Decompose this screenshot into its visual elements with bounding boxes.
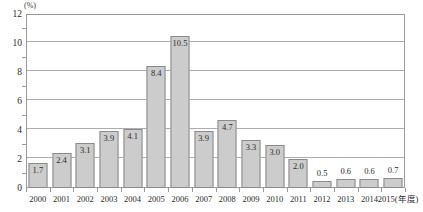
x-tick	[310, 188, 311, 192]
bar-value-label: 1.7	[33, 166, 44, 175]
x-axis: 2000200120022003200420052006200720082009…	[26, 188, 405, 212]
x-tick-label: 2009	[243, 194, 260, 204]
bar-group: 8.4	[144, 14, 168, 188]
bar-group: 1.7	[26, 14, 50, 188]
y-axis-labels: 024681012	[0, 14, 26, 188]
bar-value-label: 3.9	[104, 134, 115, 143]
bar-value-label: 3.3	[246, 143, 257, 152]
x-tick	[50, 188, 51, 192]
bar-value-label: 2.0	[293, 162, 304, 171]
bar-chart: (%) 024681012 1.72.43.13.94.18.410.53.94…	[0, 0, 423, 212]
y-tick-label: 12	[13, 10, 23, 19]
bar-group: 0.6	[358, 14, 382, 188]
x-tick-label: 2014	[361, 194, 378, 204]
bar-group: 3.1	[73, 14, 97, 188]
bar-group: 4.1	[121, 14, 145, 188]
x-tick-label: 2003	[100, 194, 117, 204]
y-tick-label: 6	[17, 97, 22, 106]
x-tick	[405, 188, 406, 192]
bar-value-label: 4.1	[127, 132, 138, 141]
bar-group: 3.9	[97, 14, 121, 188]
bar	[147, 66, 166, 188]
bar-value-label: 4.7	[222, 123, 233, 132]
x-tick-label: 2006	[171, 194, 188, 204]
bar	[313, 181, 332, 188]
bar-group: 3.3	[239, 14, 263, 188]
y-tick-label: 10	[13, 39, 23, 48]
x-tick	[239, 188, 240, 192]
x-tick	[287, 188, 288, 192]
y-tick-label: 2	[17, 155, 22, 164]
bar-value-label: 0.6	[364, 167, 375, 176]
y-tick-label: 0	[17, 184, 22, 193]
x-tick	[192, 188, 193, 192]
x-tick-label: 2010	[266, 194, 283, 204]
x-tick-label: 2007	[195, 194, 212, 204]
bar-value-label: 0.6	[340, 167, 351, 176]
bar-group: 2.0	[287, 14, 311, 188]
bar	[384, 178, 403, 188]
bar-group: 4.7	[216, 14, 240, 188]
bar	[170, 36, 189, 188]
bar-group: 3.9	[192, 14, 216, 188]
bars-layer: 1.72.43.13.94.18.410.53.94.73.33.02.00.5…	[26, 14, 405, 188]
x-tick-label: 2004	[124, 194, 141, 204]
x-tick	[144, 188, 145, 192]
x-tick-label: 2012	[314, 194, 331, 204]
x-tick-label: 2002	[77, 194, 94, 204]
x-tick	[381, 188, 382, 192]
y-tick-label: 8	[17, 68, 22, 77]
x-tick	[216, 188, 217, 192]
x-tick-label: 2000	[29, 194, 46, 204]
bar	[336, 179, 355, 188]
bar-value-label: 8.4	[151, 69, 162, 78]
bar-group: 0.6	[334, 14, 358, 188]
x-tick-label: 2005	[148, 194, 165, 204]
bar	[360, 179, 379, 188]
x-tick-label: 2013	[337, 194, 354, 204]
bar-value-label: 3.9	[198, 134, 209, 143]
x-tick	[97, 188, 98, 192]
x-tick-label: 2015(年度)	[378, 194, 419, 204]
bar-group: 10.5	[168, 14, 192, 188]
bar-group: 2.4	[50, 14, 74, 188]
x-tick	[73, 188, 74, 192]
x-tick	[263, 188, 264, 192]
x-tick-label: 2001	[53, 194, 70, 204]
x-tick-label: 2011	[290, 194, 307, 204]
bar-value-label: 10.5	[173, 39, 188, 48]
bar-value-label: 2.4	[56, 156, 67, 165]
y-axis-unit-label: (%)	[24, 1, 36, 10]
x-tick	[26, 188, 27, 192]
bar-value-label: 0.5	[317, 169, 328, 178]
y-tick-label: 4	[17, 126, 22, 135]
x-tick-label: 2008	[219, 194, 236, 204]
x-tick	[121, 188, 122, 192]
bar-group: 0.5	[310, 14, 334, 188]
bar-group: 3.0	[263, 14, 287, 188]
bar-value-label: 3.1	[80, 146, 91, 155]
x-tick	[358, 188, 359, 192]
x-tick	[168, 188, 169, 192]
bar-value-label: 0.7	[388, 166, 399, 175]
bar-value-label: 3.0	[269, 148, 280, 157]
x-tick	[334, 188, 335, 192]
bar-group: 0.7	[381, 14, 405, 188]
